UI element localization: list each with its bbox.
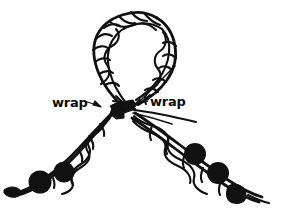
left-arm-bead-1: [29, 171, 52, 194]
left-wrap-annotation: wrap: [52, 95, 101, 110]
cord-diagram: wrap wrap: [0, 0, 294, 217]
right-arm-cross-4: [201, 168, 203, 182]
left-arm-cross-5: [51, 175, 54, 188]
left-arm-tip: [4, 187, 21, 197]
right-arm-bead-2: [207, 162, 229, 184]
loop-braid-cross-t1: [119, 16, 135, 23]
loop-inner-left-strand: [108, 23, 162, 103]
wrapped-knot: [110, 100, 136, 119]
right-arm-bead-1: [184, 143, 206, 165]
left-arm-bead-2: [54, 162, 75, 183]
right-wrap-label: wrap: [150, 94, 186, 109]
left-wrap-arrow-head: [93, 101, 101, 107]
left-wrap-label: wrap: [52, 95, 88, 110]
right-arm-bead-3: [226, 184, 247, 204]
right-arm: [132, 113, 269, 204]
illustration-canvas: wrap wrap: [0, 0, 294, 217]
left-arm: [4, 112, 113, 197]
braided-loop: [93, 12, 176, 105]
loop-braid-cross-l6: [105, 83, 119, 86]
